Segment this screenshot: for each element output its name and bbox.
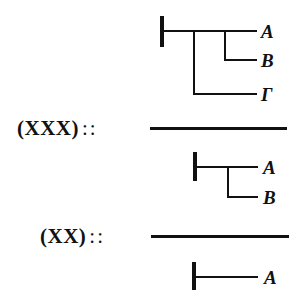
inference-line-2 [151,235,289,238]
leaf-label-a: A [261,22,274,41]
leaf-label-a: A [263,158,276,177]
condition-stroke-b-horizontal [224,59,257,61]
double-colon: :: [89,224,105,248]
content-stroke-a [194,276,258,278]
inference-label-xxx: (XXX):: [17,118,98,139]
rule-name: (XXX) [17,116,79,140]
leaf-label-a: A [264,268,277,287]
leaf-label-b: B [261,51,274,70]
condition-stroke-gamma-vertical [193,30,195,95]
condition-stroke-gamma-horizontal [193,93,257,95]
inference-line-1 [150,127,287,130]
leaf-label-b: B [263,188,276,207]
condition-stroke-b-horizontal [227,196,258,198]
condition-stroke-b-vertical [227,166,229,198]
condition-stroke-b-vertical [224,30,226,61]
rule-name: (XX) [40,224,86,248]
leaf-label-gamma: Γ [261,85,272,104]
begriffsschrift-figure: A B Γ (XXX):: A B (XX):: A [0,0,304,307]
inference-label-xx: (XX):: [40,226,105,247]
content-stroke-a [162,30,257,32]
double-colon: :: [82,116,98,140]
